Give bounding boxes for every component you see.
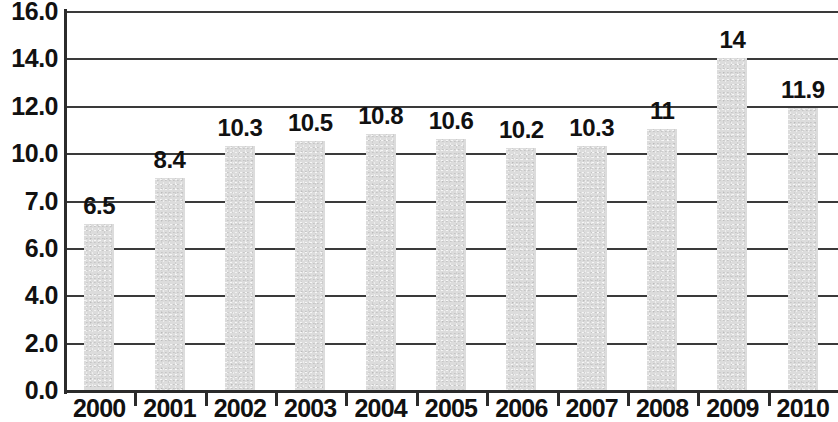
x-tick-mark — [768, 393, 771, 406]
bar-value-label: 6.5 — [64, 194, 134, 218]
x-axis-line — [64, 390, 838, 393]
y-axis: 0.02.04.06.07.010.012.014.016.0 — [0, 0, 58, 422]
x-tick-mark — [557, 393, 560, 406]
gridline — [64, 11, 838, 13]
x-tick-label: 2005 — [416, 396, 486, 421]
x-tick-mark — [416, 393, 419, 406]
y-tick-label: 6.0 — [25, 236, 58, 261]
bar-value-label: 8.4 — [134, 148, 204, 172]
bar-value-label: 10.3 — [205, 116, 275, 140]
x-tick-label: 2000 — [64, 396, 134, 421]
bar-value-label: 11 — [627, 99, 697, 123]
bar-value-label: 11.9 — [768, 78, 838, 102]
bar — [647, 129, 677, 390]
x-tick-label: 2001 — [134, 396, 204, 421]
y-tick-label: 4.0 — [25, 283, 58, 308]
y-tick-label: 16.0 — [11, 0, 58, 24]
x-tick-label: 2008 — [627, 396, 697, 421]
x-tick-label: 2007 — [557, 396, 627, 421]
bar-chart: 0.02.04.06.07.010.012.014.016.0 6.58.410… — [0, 0, 838, 422]
y-tick-label: 0.0 — [25, 378, 58, 403]
x-tick-mark — [697, 393, 700, 406]
plot-area: 6.58.410.310.510.810.610.210.3111411.9 2… — [64, 0, 838, 422]
bar — [366, 134, 396, 390]
y-tick-label: 2.0 — [25, 331, 58, 356]
bar — [436, 139, 466, 390]
x-tick-label: 2010 — [768, 396, 838, 421]
bar — [84, 224, 114, 390]
bar — [788, 108, 818, 390]
bar-value-label: 14 — [697, 28, 767, 52]
x-tick-mark — [345, 393, 348, 406]
bar-value-label: 10.2 — [486, 118, 556, 142]
y-tick-label: 10.0 — [11, 141, 58, 166]
x-tick-label: 2006 — [486, 396, 556, 421]
bar-value-label: 10.5 — [275, 111, 345, 135]
bar — [155, 178, 185, 390]
y-tick-label: 7.0 — [25, 189, 58, 214]
bar-value-label: 10.8 — [345, 104, 415, 128]
x-tick-label: 2004 — [345, 396, 415, 421]
x-tick-label: 2003 — [275, 396, 345, 421]
x-tick-mark — [205, 393, 208, 406]
bar-value-label: 10.6 — [416, 109, 486, 133]
x-tick-label: 2009 — [697, 396, 767, 421]
x-tick-mark — [486, 393, 489, 406]
x-tick-mark — [275, 393, 278, 406]
y-axis-line — [64, 9, 67, 394]
x-tick-label: 2002 — [205, 396, 275, 421]
bar — [506, 148, 536, 390]
bar — [577, 146, 607, 390]
bar — [225, 146, 255, 390]
bar-value-label: 10.3 — [557, 116, 627, 140]
y-tick-label: 14.0 — [11, 46, 58, 71]
x-tick-mark — [627, 393, 630, 406]
bar — [295, 141, 325, 390]
x-tick-mark — [134, 393, 137, 406]
y-tick-label: 12.0 — [11, 94, 58, 119]
bar — [717, 58, 747, 390]
